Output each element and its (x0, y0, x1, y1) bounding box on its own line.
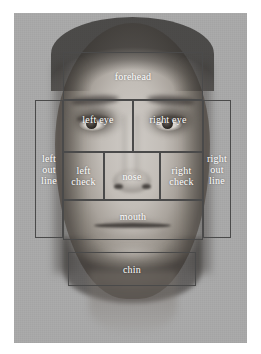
region-label-right-outline: right out line (204, 153, 230, 186)
region-label-left-cheek: left check (64, 165, 103, 187)
region-box-right-outline: right out line (203, 100, 231, 238)
region-box-chin: chin (68, 252, 196, 286)
region-box-right-eye: right eye (133, 100, 203, 152)
region-label-chin: chin (69, 264, 195, 275)
region-box-left-eye: left eye (63, 100, 133, 152)
region-box-left-outline: left out line (35, 100, 63, 238)
region-box-forehead: forehead (63, 52, 203, 100)
region-label-left-eye: left eye (64, 114, 132, 125)
region-label-left-outline: left out line (36, 153, 62, 186)
face-region-annotation-figure: foreheadleft eyeright eyeleft out lineri… (14, 13, 247, 343)
region-box-right-cheek: right check (160, 152, 203, 200)
region-label-mouth: mouth (64, 211, 202, 222)
region-box-left-cheek: left check (63, 152, 104, 200)
region-label-right-eye: right eye (134, 114, 202, 125)
region-label-nose: nose (105, 171, 159, 182)
region-box-nose: nose (104, 152, 160, 200)
region-label-forehead: forehead (64, 71, 202, 82)
region-box-mouth: mouth (63, 200, 203, 240)
region-label-right-cheek: right check (161, 165, 202, 187)
